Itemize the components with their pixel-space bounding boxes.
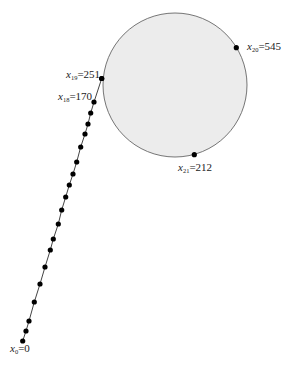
rho-diagram-canvas bbox=[0, 0, 291, 368]
tail-point-12 bbox=[70, 171, 75, 176]
label-x19: x19=251 bbox=[66, 69, 100, 80]
cycle-point-2 bbox=[192, 152, 197, 157]
tail-point-15 bbox=[82, 131, 87, 136]
tail-point-18 bbox=[91, 99, 96, 104]
label-x19-value: =251 bbox=[77, 68, 100, 80]
tail-point-14 bbox=[78, 144, 83, 149]
tail-point-3 bbox=[32, 299, 37, 304]
label-x18-value: =170 bbox=[69, 90, 92, 102]
label-x21-value: =212 bbox=[189, 161, 212, 173]
label-x21: x21=212 bbox=[178, 162, 212, 173]
cycle-circle bbox=[103, 13, 247, 157]
tail-point-16 bbox=[85, 121, 90, 126]
label-x0-value: =0 bbox=[18, 342, 30, 354]
tail-point-6 bbox=[48, 247, 53, 252]
tail-point-9 bbox=[59, 207, 64, 212]
cycle-point-1 bbox=[234, 45, 239, 50]
label-x18: x18=170 bbox=[58, 91, 92, 102]
tail-points bbox=[20, 76, 104, 344]
tail-point-5 bbox=[42, 264, 47, 269]
tail-point-2 bbox=[26, 318, 31, 323]
tail-point-11 bbox=[67, 182, 72, 187]
tail-point-4 bbox=[37, 281, 42, 286]
label-x0: x0=0 bbox=[10, 343, 30, 354]
tail-point-1 bbox=[23, 328, 28, 333]
tail-point-17 bbox=[88, 110, 93, 115]
rho-diagram: x0=0 x18=170 x19=251 x20=545 x21=212 bbox=[0, 0, 291, 368]
tail-point-7 bbox=[51, 236, 56, 241]
label-x20-value: =545 bbox=[258, 40, 281, 52]
tail-point-13 bbox=[74, 159, 79, 164]
tail-point-10 bbox=[63, 194, 68, 199]
tail-point-8 bbox=[56, 221, 61, 226]
label-x20: x20=545 bbox=[247, 41, 281, 52]
